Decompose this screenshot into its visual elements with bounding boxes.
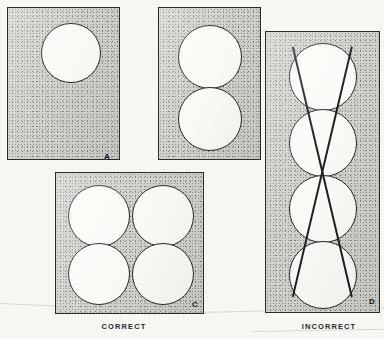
- panel-a: A: [7, 7, 120, 160]
- figure-caption: INCORRECT: [286, 322, 372, 331]
- sheet-sheen: [266, 32, 379, 312]
- panel-label-a: A: [104, 153, 110, 160]
- sheet-sheen: [159, 8, 260, 159]
- panel-c: C: [55, 172, 204, 314]
- figure-sheet: ABCDCORRECTINCORRECT: [0, 0, 384, 339]
- sheet-sheen: [56, 173, 203, 313]
- panel-label-d: D: [369, 298, 375, 306]
- sheet-sheen: [8, 8, 119, 159]
- figure-caption: CORRECT: [79, 322, 169, 331]
- panel-d: D: [265, 31, 380, 313]
- panel-label-c: C: [192, 301, 198, 309]
- panel-b: B: [158, 7, 261, 160]
